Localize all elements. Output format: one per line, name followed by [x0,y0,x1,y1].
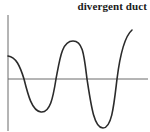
line-chart [0,0,150,132]
